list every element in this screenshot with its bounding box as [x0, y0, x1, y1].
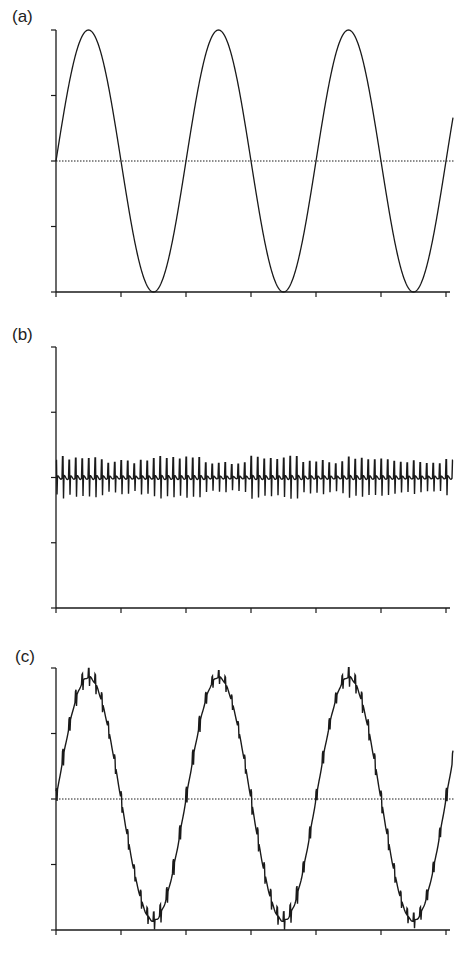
- signal-line: [56, 456, 453, 498]
- panel-label-c: (c): [15, 647, 35, 666]
- panel-label-a: (a): [12, 7, 33, 26]
- panel-a: (a): [12, 7, 455, 297]
- figure: (a) (b) (c): [0, 0, 469, 954]
- panel-label-b: (b): [12, 325, 33, 344]
- panel-b: (b): [12, 325, 453, 613]
- panel-c: (c): [15, 647, 455, 935]
